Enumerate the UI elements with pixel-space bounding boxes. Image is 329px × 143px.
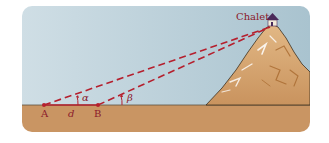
chalet-label: Chalet	[236, 12, 269, 22]
angle-alpha-label: α	[82, 93, 89, 103]
point-b-marker	[96, 103, 100, 107]
point-b-label: B	[94, 109, 101, 119]
elevation-diagram: Chalet A d B α β	[0, 0, 329, 143]
diagram-canvas	[0, 0, 329, 143]
point-a-label: A	[41, 109, 48, 119]
point-a-marker	[42, 103, 46, 107]
panel	[22, 6, 310, 135]
ground	[22, 105, 310, 135]
angle-beta-label: β	[127, 93, 133, 103]
distance-label: d	[68, 109, 74, 119]
